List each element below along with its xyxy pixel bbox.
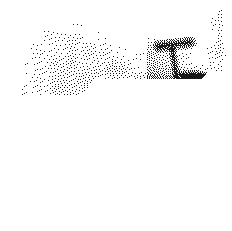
dithered-photograph xyxy=(0,0,232,231)
image-viewport xyxy=(0,0,232,231)
